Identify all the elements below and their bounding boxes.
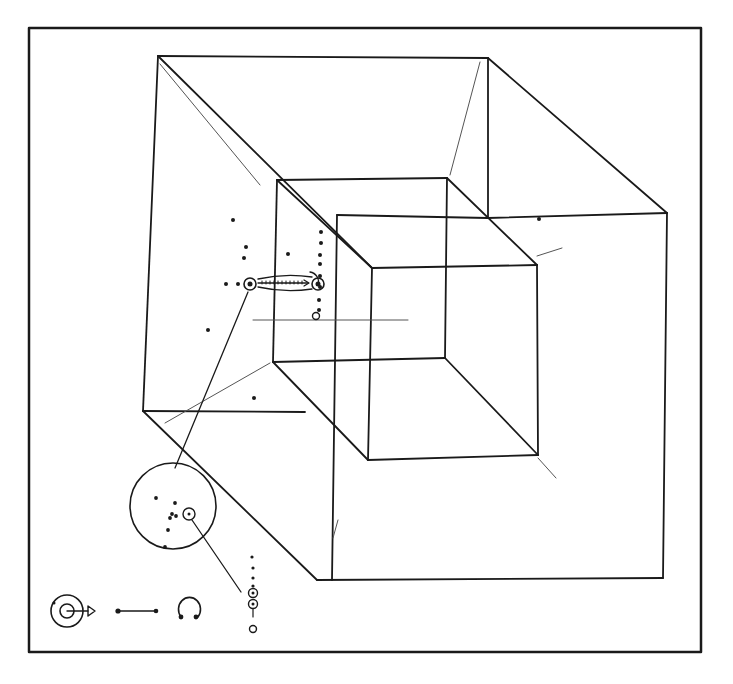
cube-edge xyxy=(663,213,667,578)
faint-line xyxy=(537,248,562,256)
target-arrow-icon xyxy=(51,595,95,627)
inset-ring-core xyxy=(188,513,191,516)
box-edge xyxy=(273,358,445,362)
inset-dot xyxy=(163,545,167,549)
box-edge xyxy=(445,178,447,358)
arrow-curve-top xyxy=(258,275,312,279)
tesseract-sketch xyxy=(0,0,733,684)
box-edge xyxy=(277,178,447,180)
dot xyxy=(224,282,228,286)
dot xyxy=(319,230,323,234)
faint-line xyxy=(538,458,556,478)
chain-ring-core xyxy=(252,592,255,595)
chain-ring-core xyxy=(252,603,255,606)
cube-edge xyxy=(143,56,158,411)
cube-edge xyxy=(368,268,372,460)
dot xyxy=(236,282,240,286)
box-edge xyxy=(273,180,277,362)
inset-dot xyxy=(173,501,177,505)
inset-dot xyxy=(170,512,174,516)
symbol-legend xyxy=(51,595,201,627)
cube-edge xyxy=(143,411,305,412)
dot xyxy=(317,298,321,302)
middle-box xyxy=(273,178,667,580)
dot xyxy=(319,241,323,245)
leader-line xyxy=(192,520,241,592)
inset-circle-outline xyxy=(130,463,216,549)
faint-line xyxy=(160,64,260,185)
box-edge xyxy=(447,178,537,265)
dot xyxy=(231,218,235,222)
arrow-bundle-icon xyxy=(258,272,318,291)
cube-edge xyxy=(158,56,372,268)
inset-dot xyxy=(168,516,172,520)
faint-line xyxy=(450,62,480,175)
dot xyxy=(317,308,321,312)
cube-edge xyxy=(537,265,538,455)
cube-edge xyxy=(488,58,667,213)
faint-line xyxy=(165,363,270,423)
dumbbell-link-icon xyxy=(115,608,158,613)
open-node-icon xyxy=(313,313,320,320)
dot xyxy=(242,256,246,260)
dot xyxy=(318,262,322,266)
inset-dot xyxy=(166,528,170,532)
faint-line xyxy=(333,520,338,538)
chain-dot xyxy=(251,584,254,587)
box-edge xyxy=(337,215,488,218)
inset-dot xyxy=(174,514,178,518)
dot xyxy=(252,396,256,400)
dot xyxy=(537,217,541,221)
scattered-dots xyxy=(206,217,541,400)
magnified-inset-circle xyxy=(130,463,216,549)
dot xyxy=(286,252,290,256)
dot xyxy=(244,245,248,249)
cube-edge xyxy=(143,411,317,580)
sketch-canvas xyxy=(0,0,733,684)
chain-dot xyxy=(250,555,253,558)
cube-edge xyxy=(368,455,538,460)
border-frame xyxy=(29,28,701,652)
box-edge xyxy=(488,213,667,218)
cube-edge xyxy=(158,56,488,58)
arrow-curve-bottom xyxy=(258,287,312,291)
open-loop-icon xyxy=(179,597,201,619)
dot xyxy=(318,253,322,257)
chain-dot xyxy=(251,566,254,569)
vertical-node-chain xyxy=(249,555,258,632)
chain-open-end-icon xyxy=(250,626,257,633)
cube-edge xyxy=(277,180,372,268)
ring-node-core xyxy=(248,282,253,287)
ringed-nodes xyxy=(244,278,324,320)
inset-dot xyxy=(154,496,158,500)
cube-edge xyxy=(372,265,537,268)
dot xyxy=(206,328,210,332)
cube-edge xyxy=(317,578,663,580)
cube-edge xyxy=(445,358,538,455)
chain-dot xyxy=(251,576,254,579)
leader-line xyxy=(175,292,248,468)
faint-guide-lines xyxy=(160,62,562,538)
outer-cube xyxy=(143,56,667,580)
